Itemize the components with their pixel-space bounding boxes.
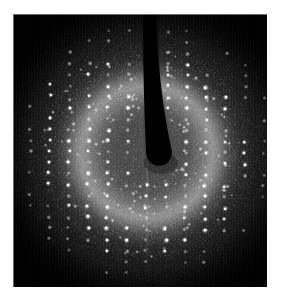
page-root (0, 0, 281, 308)
scan-line-artifacts (13, 14, 267, 287)
diffraction-image-panel (13, 14, 267, 287)
